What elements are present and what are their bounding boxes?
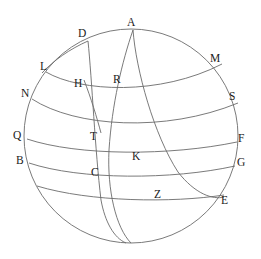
point-label-F: F xyxy=(238,133,244,145)
point-label-E: E xyxy=(221,195,228,207)
point-label-G: G xyxy=(237,157,245,169)
point-label-A: A xyxy=(127,17,135,29)
point-label-Q: Q xyxy=(13,130,21,142)
outer-circle xyxy=(24,29,238,243)
latitude-arc-C-to-E xyxy=(37,186,224,200)
point-label-N: N xyxy=(21,88,29,100)
point-label-K: K xyxy=(132,151,140,163)
latitude-arc-N-to-S xyxy=(32,99,238,123)
point-label-T: T xyxy=(90,131,97,143)
point-label-L: L xyxy=(40,61,47,73)
point-label-Z: Z xyxy=(154,189,161,201)
point-label-C: C xyxy=(91,167,99,179)
short-arc-H-to-T xyxy=(84,80,101,133)
point-label-S: S xyxy=(229,91,235,103)
point-label-H: H xyxy=(74,78,82,90)
latitude-arc-B-to-G xyxy=(29,163,235,176)
short-arc-D-to-L-edge xyxy=(42,41,88,73)
meridian-arc-A-through-R-T-bottom xyxy=(109,30,133,243)
sphere-diagram-canvas xyxy=(0,0,261,259)
point-label-B: B xyxy=(16,155,24,167)
geometry-figure: A D L M H R N S Q T F B K G C Z E xyxy=(0,0,261,259)
latitude-arc-L-to-M xyxy=(46,64,222,88)
point-label-R: R xyxy=(113,74,121,86)
point-label-M: M xyxy=(210,53,220,65)
point-label-D: D xyxy=(78,28,86,40)
